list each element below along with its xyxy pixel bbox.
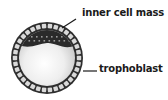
inner-cell-mass-label: inner cell mass xyxy=(82,7,164,18)
inner-cell-mass-leader-line xyxy=(62,19,76,28)
trophoblast-label: trophoblast xyxy=(99,63,163,74)
